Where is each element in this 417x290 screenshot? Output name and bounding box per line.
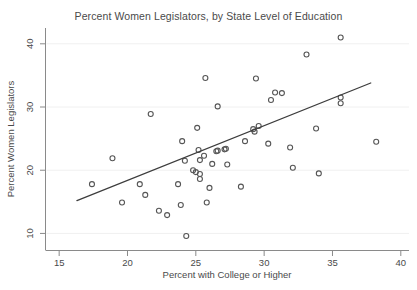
data-point [374, 139, 379, 144]
data-point [225, 162, 230, 167]
data-point [180, 139, 185, 144]
x-tick-label: 20 [122, 257, 133, 268]
axes [46, 28, 410, 251]
gridlines [47, 44, 410, 234]
data-point [304, 52, 309, 57]
data-point [120, 200, 125, 205]
data-point [243, 139, 248, 144]
data-point [110, 156, 115, 161]
data-point [197, 158, 202, 163]
data-point [197, 177, 202, 182]
data-point [202, 153, 207, 158]
data-point [273, 90, 278, 95]
x-tick-label: 30 [259, 257, 270, 268]
x-tick-label: 40 [396, 257, 407, 268]
data-point [195, 125, 200, 130]
data-point [143, 192, 148, 197]
data-point [290, 165, 295, 170]
data-point [182, 158, 187, 163]
data-point [148, 111, 153, 116]
data-point [210, 161, 215, 166]
scatter-plot-figure: Percent Women Legislators, by State Leve… [0, 0, 417, 290]
y-tick-label: 40 [25, 39, 36, 50]
data-point [207, 185, 212, 190]
regression-line-group [77, 83, 371, 201]
y-tick-label: 30 [25, 102, 36, 113]
data-point [316, 171, 321, 176]
data-point [176, 182, 181, 187]
x-tick-label: 25 [191, 257, 202, 268]
data-point-group [89, 35, 378, 238]
x-tick-label: 15 [54, 257, 65, 268]
data-point [268, 98, 273, 103]
data-point [314, 126, 319, 131]
data-point [89, 182, 94, 187]
x-axis-ticks: 152025303540 [54, 251, 406, 269]
data-point [215, 104, 220, 109]
data-point [279, 91, 284, 96]
y-axis-label: Percent Women Legislators [5, 80, 16, 197]
y-tick-label: 20 [25, 165, 36, 176]
plot-canvas: 10203040 152025303540 Percent with Colle… [0, 0, 417, 290]
x-axis-label: Percent with College or Higher [163, 269, 292, 280]
data-point [266, 141, 271, 146]
data-point [253, 76, 258, 81]
data-point [204, 200, 209, 205]
y-tick-label: 10 [25, 228, 36, 239]
data-point [165, 213, 170, 218]
regression-line [77, 83, 371, 201]
data-point [288, 145, 293, 150]
data-point [184, 233, 189, 238]
data-point [137, 182, 142, 187]
data-point [156, 208, 161, 213]
data-point [238, 184, 243, 189]
x-tick-label: 35 [327, 257, 338, 268]
data-point [338, 35, 343, 40]
y-axis-ticks: 10203040 [25, 39, 46, 239]
data-point [178, 202, 183, 207]
data-point [203, 75, 208, 80]
data-point [338, 101, 343, 106]
